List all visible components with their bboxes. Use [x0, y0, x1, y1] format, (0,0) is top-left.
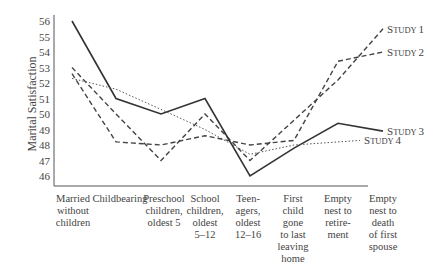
legend-label-study-1: STUDY 1 — [387, 23, 424, 35]
series-line-study-3 — [72, 21, 383, 176]
legend-label-study-4: STUDY 4 — [364, 134, 402, 146]
legend-label-study-3: STUDY 3 — [387, 125, 425, 137]
y-tick-label: 53 — [39, 62, 51, 74]
legend-labels: STUDY 1STUDY 2STUDY 3STUDY 4 — [364, 23, 425, 147]
x-category-label: Schoolchildren,oldest5–12 — [186, 193, 223, 240]
x-category-label: Teen-agers,oldest12–16 — [235, 193, 261, 240]
series-line-study-2 — [72, 52, 383, 145]
x-category-label: Emptynest toretire-ment — [324, 193, 353, 240]
y-tick-label: 56 — [39, 15, 51, 27]
y-tick-label: 49 — [39, 124, 51, 136]
x-category-label: Preschoolchildren,oldest 5 — [143, 193, 184, 228]
x-category-label: Marriedwithoutchildren — [56, 193, 91, 228]
legend-label-study-2: STUDY 2 — [387, 46, 424, 58]
marital-satisfaction-chart: 4647484950515253545556 Marriedwithoutchi… — [0, 0, 446, 269]
series-lines — [72, 21, 383, 176]
y-tick-label: 50 — [39, 108, 51, 120]
y-tick-label: 55 — [39, 31, 51, 43]
y-tick-label: 48 — [39, 139, 51, 151]
x-category-label: Emptynest todeathof firstspouse — [369, 193, 398, 252]
y-tick-label: 52 — [39, 77, 50, 89]
y-axis: 4647484950515253545556 — [39, 15, 54, 186]
y-tick-label: 54 — [39, 46, 51, 58]
y-tick-label: 47 — [39, 155, 51, 167]
x-category-label: Firstchildgoneto lastleavinghome — [278, 193, 310, 264]
y-axis-label: Marital Satisfaction — [25, 57, 39, 152]
x-axis: MarriedwithoutchildrenChildbearingPresch… — [54, 186, 398, 264]
x-category-label: Childbearing — [93, 193, 149, 204]
y-tick-label: 46 — [39, 170, 51, 182]
y-tick-label: 51 — [39, 93, 50, 105]
